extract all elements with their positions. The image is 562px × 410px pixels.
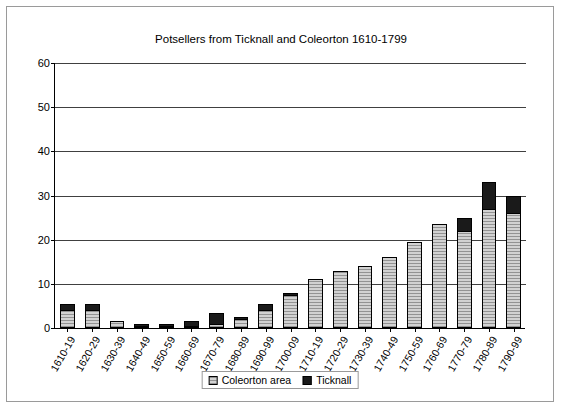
bar-segment-coleorton [308, 279, 323, 328]
bar-segment-coleorton [482, 209, 497, 328]
x-axis-tick-mark [365, 328, 366, 332]
bar-segment-coleorton [258, 310, 273, 328]
bar-stack [333, 271, 348, 328]
legend-swatch-coleorton [209, 376, 218, 385]
bar-stack [358, 266, 373, 328]
x-axis-tick-mark [92, 328, 93, 332]
bar-group: 1740-49 [377, 63, 402, 328]
bar-group: 1620-29 [80, 63, 105, 328]
x-axis-tick-mark [514, 328, 515, 332]
x-axis-tick-mark [439, 328, 440, 332]
bar-group: 1670-79 [204, 63, 229, 328]
bar-group: 1710-19 [303, 63, 328, 328]
x-axis-tick-mark [464, 328, 465, 332]
x-axis-tick-mark [67, 328, 68, 332]
bar-segment-ticknall [506, 196, 521, 214]
bar-group: 1640-49 [129, 63, 154, 328]
bar-segment-ticknall [482, 182, 497, 209]
legend-label-coleorton: Coleorton area [222, 374, 291, 386]
x-axis-tick-mark [390, 328, 391, 332]
x-axis-tick-mark [191, 328, 192, 332]
legend-label-ticknall: Ticknall [316, 374, 351, 386]
bar-stack [283, 293, 298, 328]
bar-stack [407, 242, 422, 328]
y-axis-tick-label: 30 [38, 190, 50, 202]
y-axis-tick-label: 20 [38, 234, 50, 246]
x-axis-tick-mark [489, 328, 490, 332]
bar-stack [60, 304, 75, 328]
legend-swatch-ticknall [303, 376, 312, 385]
bar-group: 1760-69 [427, 63, 452, 328]
x-axis-tick-mark [266, 328, 267, 332]
y-axis-tick-label: 10 [38, 278, 50, 290]
bar-segment-coleorton [382, 257, 397, 328]
bar-stack [506, 196, 521, 328]
bar-stack [110, 321, 125, 328]
x-axis-tick-mark [291, 328, 292, 332]
bar-segment-coleorton [407, 242, 422, 328]
bar-segment-coleorton [358, 266, 373, 328]
bar-group: 1630-39 [105, 63, 130, 328]
bar-group: 1720-29 [328, 63, 353, 328]
legend-item-ticknall: Ticknall [303, 374, 351, 386]
x-axis-tick-mark [142, 328, 143, 332]
bar-group: 1790-99 [501, 63, 526, 328]
y-axis-tick-label: 50 [38, 101, 50, 113]
y-axis-tick-label: 40 [38, 145, 50, 157]
chart-title: Potsellers from Ticknall and Coleorton 1… [7, 33, 555, 45]
chart-legend: Coleorton area Ticknall [202, 371, 359, 389]
y-axis-tick-label: 0 [44, 322, 50, 334]
x-axis-tick-mark [216, 328, 217, 332]
y-axis-tick-label: 60 [38, 57, 50, 69]
bar-stack [209, 313, 224, 328]
bar-stack [482, 182, 497, 328]
bar-stack [432, 224, 447, 328]
bar-stack [234, 317, 249, 328]
bar-segment-ticknall [209, 313, 224, 324]
x-axis-tick-mark [340, 328, 341, 332]
bar-segment-coleorton [457, 231, 472, 328]
plot-area: 0102030405060 1610-191620-291630-391640-… [54, 63, 525, 329]
bar-stack [184, 321, 199, 328]
bar-group: 1650-59 [154, 63, 179, 328]
bar-segment-coleorton [333, 271, 348, 328]
bar-segment-coleorton [85, 310, 100, 328]
bar-group: 1660-69 [179, 63, 204, 328]
bar-segment-ticknall [60, 304, 75, 311]
bar-segment-coleorton [110, 321, 125, 328]
x-axis-tick-mark [167, 328, 168, 332]
x-axis-tick-mark [117, 328, 118, 332]
bar-group: 1700-09 [278, 63, 303, 328]
bar-segment-ticknall [258, 304, 273, 311]
bar-series-group: 1610-191620-291630-391640-491650-591660-… [55, 63, 526, 328]
bar-segment-coleorton [234, 319, 249, 328]
bar-group: 1750-59 [402, 63, 427, 328]
bar-stack [308, 279, 323, 328]
bar-segment-ticknall [457, 218, 472, 231]
bar-group: 1780-89 [477, 63, 502, 328]
bar-stack [382, 257, 397, 328]
x-axis-tick-mark [241, 328, 242, 332]
bar-segment-coleorton [506, 213, 521, 328]
bar-segment-coleorton [283, 295, 298, 328]
legend-item-coleorton: Coleorton area [209, 374, 291, 386]
bar-stack [85, 304, 100, 328]
bar-stack [258, 304, 273, 328]
x-axis-tick-mark [415, 328, 416, 332]
bar-segment-coleorton [432, 224, 447, 328]
bar-segment-coleorton [60, 310, 75, 328]
bar-segment-ticknall [85, 304, 100, 311]
chart-frame: Potsellers from Ticknall and Coleorton 1… [6, 6, 554, 402]
bar-stack [457, 218, 472, 328]
x-axis-tick-mark [315, 328, 316, 332]
y-axis-tick-mark [51, 328, 55, 329]
bar-group: 1680-89 [229, 63, 254, 328]
bar-group: 1770-79 [452, 63, 477, 328]
bar-group: 1730-39 [353, 63, 378, 328]
bar-group: 1690-99 [253, 63, 278, 328]
bar-group: 1610-19 [55, 63, 80, 328]
